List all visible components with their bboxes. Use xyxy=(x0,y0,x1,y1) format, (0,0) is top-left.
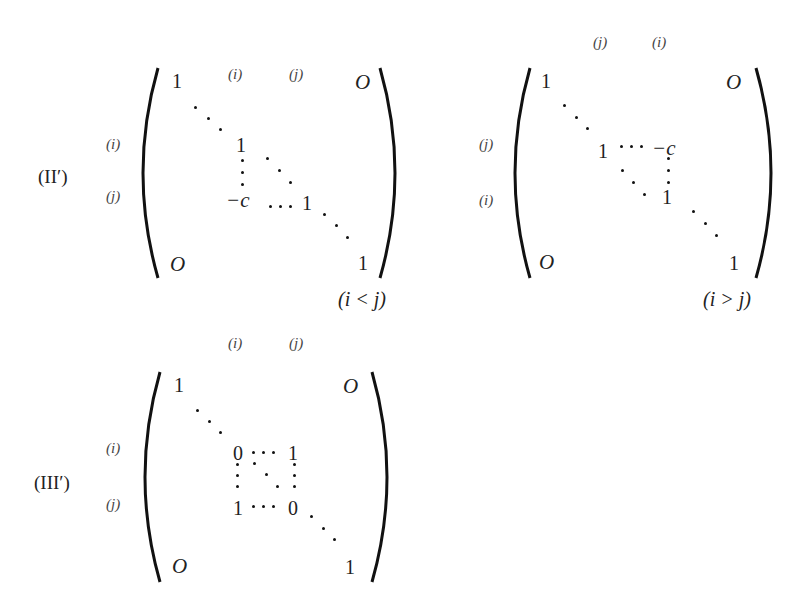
matrix-tag: (III′) xyxy=(34,472,70,494)
left-paren xyxy=(134,370,164,584)
entry-top-right: O xyxy=(355,70,370,95)
entry-jj: 1 xyxy=(302,192,312,215)
entry-top-left: 1 xyxy=(172,70,182,93)
entry-ii: 1 xyxy=(236,134,246,157)
right-paren xyxy=(376,66,406,280)
entry-ji: −c xyxy=(652,136,676,161)
col-label-i: (i) xyxy=(652,34,666,51)
entry-top-left: 1 xyxy=(174,374,184,397)
condition: (i < j) xyxy=(338,288,386,311)
entry-ii: 1 xyxy=(662,186,672,209)
row-label-i: (i) xyxy=(106,440,120,457)
condition: (i > j) xyxy=(703,288,751,311)
entry-bottom-right: 1 xyxy=(729,252,739,275)
row-label-i: (i) xyxy=(479,192,493,209)
entry-ij: 1 xyxy=(288,442,298,465)
row-label-i: (i) xyxy=(106,136,120,153)
col-label-j: (j) xyxy=(289,66,303,83)
entry-bottom-left: O xyxy=(172,554,187,579)
entry-top-right: O xyxy=(343,374,358,399)
col-label-j: (j) xyxy=(593,34,607,51)
entry-jj: 1 xyxy=(598,140,608,163)
col-label-i: (i) xyxy=(228,66,242,83)
entry-bottom-right: 1 xyxy=(358,252,368,275)
entry-bottom-right: 1 xyxy=(345,556,355,579)
entry-top-left: 1 xyxy=(541,70,551,93)
col-label-j: (j) xyxy=(289,335,303,352)
entry-bottom-left: O xyxy=(170,252,185,277)
entry-bottom-left: O xyxy=(539,250,554,275)
entry-ji: −c xyxy=(226,188,250,213)
entry-ji: 1 xyxy=(233,497,243,520)
entry-top-right: O xyxy=(726,70,741,95)
right-paren xyxy=(752,66,782,280)
entry-jj: 0 xyxy=(288,497,298,520)
right-paren xyxy=(368,370,398,584)
entry-ii: 0 xyxy=(233,442,243,465)
col-label-i: (i) xyxy=(228,335,242,352)
row-label-j: (j) xyxy=(479,136,493,153)
matrix-tag: (II′) xyxy=(38,166,67,188)
left-paren xyxy=(132,66,162,280)
row-label-j: (j) xyxy=(106,496,120,513)
left-paren xyxy=(504,66,534,280)
row-label-j: (j) xyxy=(106,188,120,205)
